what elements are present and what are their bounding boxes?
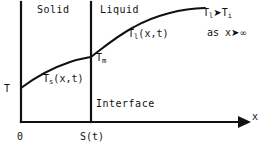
boundary-rhs-subscript: i <box>228 11 232 20</box>
region-label-solid: Solid <box>37 5 70 15</box>
diagram-lines <box>0 0 268 149</box>
x-axis-label: x <box>252 112 258 122</box>
x-tick-origin: 0 <box>17 132 23 142</box>
y-axis-label: T <box>4 84 10 94</box>
boundary-as-text: as <box>207 27 219 38</box>
infinity-icon: ∞ <box>240 28 248 38</box>
region-label-liquid: Liquid <box>100 5 139 15</box>
solid-profile-args: (x,t) <box>53 73 83 84</box>
x-axis-arrowhead <box>238 116 251 128</box>
melting-temperature-subscript: m <box>102 56 106 65</box>
interface-label: Interface <box>96 99 155 109</box>
boundary-condition-domain: as x➤∞ <box>207 28 247 38</box>
stefan-problem-diagram: Solid Liquid Tl(x,t) Ts(x,t) Tm Interfac… <box>0 0 268 149</box>
x-tick-interface: S(t) <box>80 132 104 142</box>
right-arrow-icon: ➤ <box>213 7 221 18</box>
liquid-profile-label: Tl(x,t) <box>128 29 168 41</box>
boundary-condition-limit: Tl➤Ti <box>203 8 232 20</box>
melting-temperature-label: Tm <box>96 53 106 65</box>
limit-arrow-icon: ➤ <box>231 27 239 38</box>
solid-profile-label: Ts(x,t) <box>43 74 83 86</box>
liquid-profile-args: (x,t) <box>138 28 168 39</box>
